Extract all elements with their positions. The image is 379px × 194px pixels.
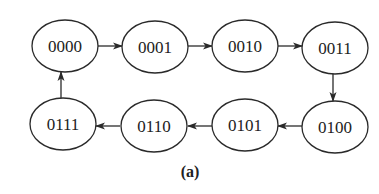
state-node-0010: 0010 xyxy=(212,20,278,72)
state-diagram: 0000 0001 0010 0011 0100 0101 0110 0111 … xyxy=(0,0,379,194)
state-node-0000: 0000 xyxy=(32,20,98,72)
state-label: 0100 xyxy=(318,118,352,137)
state-node-0001: 0001 xyxy=(122,21,188,73)
figure-caption: (a) xyxy=(181,163,200,181)
state-label: 0000 xyxy=(48,37,82,56)
state-label: 0110 xyxy=(137,117,170,136)
state-label: 0011 xyxy=(318,39,351,58)
state-node-0110: 0110 xyxy=(121,100,187,152)
state-label: 0111 xyxy=(47,115,80,134)
state-node-0101: 0101 xyxy=(212,99,278,151)
state-node-0011: 0011 xyxy=(302,22,368,74)
state-node-0111: 0111 xyxy=(30,98,96,150)
state-label: 0001 xyxy=(138,38,172,57)
state-label: 0101 xyxy=(228,116,262,135)
state-label: 0010 xyxy=(228,37,262,56)
state-node-0100: 0100 xyxy=(302,101,368,153)
